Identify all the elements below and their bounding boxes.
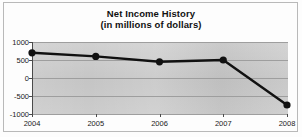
data-point-2004	[28, 49, 35, 56]
data-series-net-income	[0, 0, 302, 137]
chart-figure: Net Income History (in millions of dolla…	[0, 0, 302, 137]
data-point-2007	[220, 56, 227, 63]
data-point-2006	[156, 58, 163, 65]
data-point-2005	[92, 53, 99, 60]
data-point-2008	[283, 101, 290, 108]
